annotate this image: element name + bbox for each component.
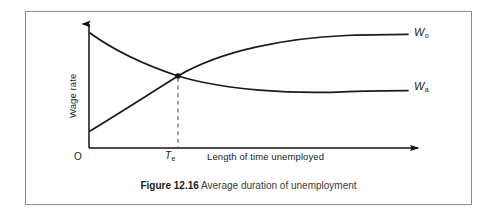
origin-label: O [74, 152, 82, 162]
curve-subscript-wo: o [425, 32, 429, 39]
curve-label-wage-offered: Wo [414, 27, 428, 38]
figure-border [25, 11, 472, 205]
curve-subscript-wa: a [425, 86, 429, 93]
curve-symbol-wo: W [414, 26, 424, 38]
y-axis-label: Wage rate [68, 104, 78, 118]
equilibrium-subscript: e [171, 155, 175, 162]
figure-container: Wage rate Length of time unemployed O Te… [0, 0, 499, 218]
figure-caption-text: Average duration of unemployment [201, 180, 356, 191]
figure-caption: Figure 12.16 Average duration of unemplo… [25, 180, 472, 191]
curve-label-acceptance-wage: Wa [414, 81, 428, 92]
x-axis-label: Length of time unemployed [207, 152, 324, 162]
curve-symbol-wa: W [414, 80, 424, 92]
equilibrium-tick-label: Te [165, 151, 175, 161]
figure-caption-number: Figure 12.16 [140, 180, 198, 191]
